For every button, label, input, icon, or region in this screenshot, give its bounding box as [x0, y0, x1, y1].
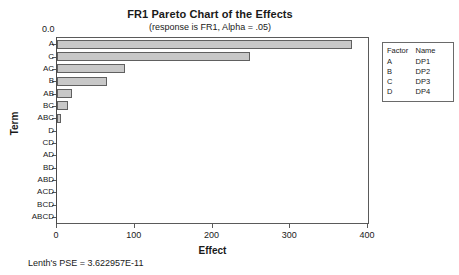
- legend-factor-b: B: [387, 67, 416, 77]
- legend-name-a: DP1: [416, 57, 449, 67]
- legend-header-name: Name: [416, 46, 449, 57]
- legend-row: ADP1: [387, 57, 449, 67]
- y-tick-label-bc: BC: [14, 102, 54, 110]
- reference-line-label: 0.0: [42, 24, 55, 34]
- x-tick-label-300: 300: [269, 230, 309, 240]
- y-tick-label-cd: CD: [14, 139, 54, 147]
- legend-header-factor: Factor: [387, 46, 416, 57]
- bar-a: [57, 40, 352, 49]
- bar-ac: [57, 64, 125, 73]
- bar-b: [57, 77, 107, 86]
- bars-layer: [57, 38, 368, 223]
- x-axis-title: Effect: [56, 245, 369, 256]
- legend-body: ADP1BDP2CDP3DDP4: [387, 57, 449, 97]
- y-tick-label-abc: ABC: [14, 114, 54, 122]
- x-tick-mark-0: [56, 224, 57, 228]
- x-tick-label-200: 200: [192, 230, 232, 240]
- legend-factor-d: D: [387, 87, 416, 97]
- y-tick-label-ad: AD: [14, 151, 54, 159]
- x-tick-label-0: 0: [36, 230, 76, 240]
- legend-row: DDP4: [387, 87, 449, 97]
- y-tick-label-ab: AB: [14, 90, 54, 98]
- legend-name-c: DP3: [416, 77, 449, 87]
- x-tick-label-100: 100: [114, 230, 154, 240]
- legend-table: Factor Name ADP1BDP2CDP3DDP4: [387, 46, 449, 97]
- y-tick-label-b: B: [14, 77, 54, 85]
- y-axis-title: Term: [9, 94, 20, 154]
- y-tick-label-c: C: [14, 53, 54, 61]
- legend-row: BDP2: [387, 67, 449, 77]
- y-tick-label-a: A: [14, 40, 54, 48]
- chart-subtitle: (response is FR1, Alpha = .05): [60, 22, 360, 32]
- pareto-chart: FR1 Pareto Chart of the Effects (respons…: [0, 0, 459, 275]
- chart-title: FR1 Pareto Chart of the Effects: [60, 8, 360, 20]
- x-tick-label-400: 400: [347, 230, 387, 240]
- x-axis-ticks: 0100200300400: [0, 224, 459, 244]
- x-tick-mark-200: [212, 224, 213, 228]
- legend-factor-a: A: [387, 57, 416, 67]
- y-tick-label-acd: ACD: [14, 188, 54, 196]
- legend-name-b: DP2: [416, 67, 449, 77]
- legend-name-d: DP4: [416, 87, 449, 97]
- legend-header-row: Factor Name: [387, 46, 449, 57]
- legend-row: CDP3: [387, 77, 449, 87]
- legend-factor-c: C: [387, 77, 416, 87]
- factor-legend: Factor Name ADP1BDP2CDP3DDP4: [382, 42, 454, 102]
- x-tick-mark-100: [134, 224, 135, 228]
- y-tick-label-abd: ABD: [14, 176, 54, 184]
- y-tick-label-abcd: ABCD: [14, 213, 54, 221]
- x-tick-mark-300: [289, 224, 290, 228]
- y-tick-label-bcd: BCD: [14, 201, 54, 209]
- lenth-pse-note: Lenth's PSE = 3.622957E-11: [28, 258, 143, 268]
- y-tick-label-ac: AC: [14, 65, 54, 73]
- y-tick-label-bd: BD: [14, 164, 54, 172]
- bar-c: [57, 52, 250, 61]
- x-tick-mark-400: [367, 224, 368, 228]
- y-tick-label-d: D: [14, 127, 54, 135]
